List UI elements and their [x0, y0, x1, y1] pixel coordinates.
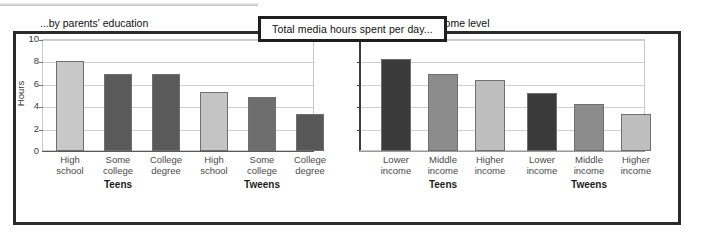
x-axis-group-label: Tweens — [222, 179, 302, 190]
x-axis-category-label-line1: Some — [238, 154, 286, 165]
x-axis-category-label-line1: Higher — [467, 154, 514, 165]
bar — [152, 74, 180, 151]
bar — [428, 74, 458, 151]
x-axis-category-label-line2: income — [373, 165, 420, 176]
x-axis-category-label-line2: income — [519, 165, 566, 176]
bar-series-household-income — [359, 39, 645, 151]
x-axis-category-label: Highschool — [46, 154, 94, 176]
x-axis-category-label-line1: High — [190, 154, 238, 165]
y-axis-tick-label: 8 — [34, 57, 39, 67]
x-axis-category-label-line1: Middle — [566, 154, 613, 165]
y-axis-tick-label: 10 — [28, 34, 39, 44]
x-axis-category-label-line2: college — [238, 165, 286, 176]
x-axis-category-label: Lowerincome — [519, 154, 566, 176]
x-axis-category-label-line2: school — [190, 165, 238, 176]
x-axis-category-label-line1: College — [142, 154, 190, 165]
x-axis-category-label-line2: income — [613, 165, 660, 176]
x-axis-category-label-line1: Lower — [373, 154, 420, 165]
x-axis-category-label: Somecollege — [238, 154, 286, 176]
y-axis-tick-label: 6 — [34, 79, 39, 89]
x-axis-category-label: Collegedegree — [142, 154, 190, 176]
x-axis-category-label: Higherincome — [613, 154, 660, 176]
bar — [574, 104, 604, 151]
x-axis-group-labels: TeensTweens — [42, 179, 314, 193]
x-axis-category-label: Middleincome — [566, 154, 613, 176]
x-axis-category-label-line2: income — [420, 165, 467, 176]
x-axis-category-label-line1: Lower — [519, 154, 566, 165]
x-axis-category-label-line1: College — [286, 154, 334, 165]
bar — [296, 114, 324, 151]
x-axis-group-label: Teens — [403, 179, 483, 190]
x-axis-category-label-line2: income — [566, 165, 613, 176]
figure-title-box: Total media hours spent per day... — [258, 16, 447, 42]
x-axis-category-label: Higherincome — [467, 154, 514, 176]
x-axis-baseline — [42, 151, 314, 152]
x-axis-category-label-line2: income — [467, 165, 514, 176]
x-axis-category-label-line1: Some — [94, 154, 142, 165]
x-axis-category-label: Somecollege — [94, 154, 142, 176]
x-axis-category-label-line2: degree — [142, 165, 190, 176]
x-axis-group-labels: TeensTweens — [359, 179, 645, 193]
x-axis-baseline — [359, 151, 645, 152]
bar — [248, 97, 276, 151]
x-axis-category-label: Middleincome — [420, 154, 467, 176]
bar — [381, 59, 411, 151]
bar — [621, 114, 651, 151]
y-axis-tick-label: 2 — [34, 124, 39, 134]
bar — [56, 61, 84, 151]
figure-title: Total media hours spent per day... — [272, 23, 433, 35]
y-axis-tick-label: 4 — [34, 101, 39, 111]
x-axis-category-label-line1: Middle — [420, 154, 467, 165]
x-axis-category-label-line2: degree — [286, 165, 334, 176]
panel-title-parents-education: ...by parents' education — [40, 17, 148, 29]
x-axis-category-label: Highschool — [190, 154, 238, 176]
y-axis-tick-labels: 0246810 — [23, 39, 39, 151]
x-axis-category-label: Lowerincome — [373, 154, 420, 176]
bar-series-parents-education — [42, 39, 314, 151]
x-axis-group-label: Tweens — [549, 179, 629, 190]
x-axis-category-label: Collegedegree — [286, 154, 334, 176]
x-axis-group-label: Teens — [78, 179, 158, 190]
bar — [200, 92, 228, 151]
x-axis-category-label-line1: Higher — [613, 154, 660, 165]
x-axis-category-label-line1: High — [46, 154, 94, 165]
bar — [527, 93, 557, 151]
y-axis-tick-label: 0 — [34, 146, 39, 156]
x-axis-category-label-line2: school — [46, 165, 94, 176]
bar — [475, 80, 505, 151]
bar — [104, 74, 132, 151]
x-axis-category-label-line2: college — [94, 165, 142, 176]
